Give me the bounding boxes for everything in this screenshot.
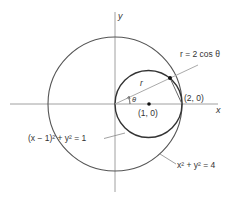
angle-label: θ bbox=[132, 95, 136, 104]
small-circle-equation: (x − 1)² + y² = 1 bbox=[28, 133, 87, 143]
point-2-0-label: (2, 0) bbox=[184, 93, 204, 103]
polar-circle-diagram: y x r = 2 cos θ r θ (2, 0) (1, 0) (x − 1… bbox=[0, 0, 234, 199]
point-1-0-label: (1, 0) bbox=[138, 108, 158, 118]
point-center-1-0 bbox=[147, 102, 151, 106]
point-on-circle bbox=[168, 76, 172, 80]
radius-label: r bbox=[140, 78, 144, 88]
large-circle-equation: x² + y² = 4 bbox=[177, 160, 216, 170]
polar-curve-label: r = 2 cos θ bbox=[180, 49, 220, 59]
x-axis-label: x bbox=[215, 105, 221, 115]
large-circle-leader bbox=[160, 154, 176, 164]
y-axis-label: y bbox=[117, 11, 123, 21]
